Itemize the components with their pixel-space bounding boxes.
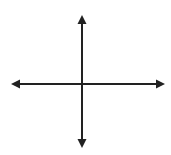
coordinate-axes xyxy=(0,0,171,155)
diagram-canvas xyxy=(0,0,171,155)
arrow-down-icon xyxy=(78,139,87,148)
arrow-left-icon xyxy=(11,80,20,89)
arrow-up-icon xyxy=(78,15,87,24)
arrow-right-icon xyxy=(156,80,165,89)
